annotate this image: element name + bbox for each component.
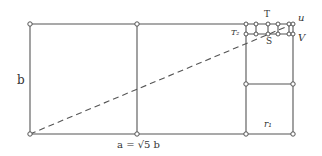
label-point-t: T [264, 10, 270, 19]
label-point-s: S [266, 37, 272, 46]
dashed-diagonal [30, 24, 293, 134]
label-point-t2: T₂ [231, 29, 240, 37]
label-point-u: u [298, 13, 304, 23]
label-region-r1: r₁ [264, 120, 272, 129]
diagram-canvas [0, 0, 322, 156]
label-side-b: b [17, 74, 25, 86]
label-point-v: V [298, 33, 305, 43]
label-base-a: a = √5 b [117, 140, 160, 150]
